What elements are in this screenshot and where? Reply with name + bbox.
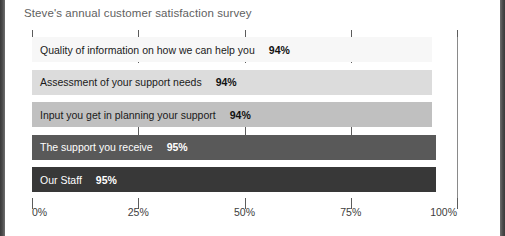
bar-row: Quality of information on how we can hel…: [32, 37, 457, 62]
bar-label: Our Staff: [32, 174, 82, 186]
x-axis-tick-label: 100%: [430, 206, 457, 218]
bar-value-label: 94%: [255, 44, 290, 56]
tick-mark-bottom: [457, 198, 458, 209]
bar[interactable]: Our Staff95%: [32, 167, 436, 192]
bar-value-label: 95%: [82, 174, 117, 186]
x-axis-tick-label: 0%: [32, 206, 47, 218]
bar-row: The support you receive95%: [32, 135, 457, 160]
x-axis-tick-label: 75%: [340, 206, 361, 218]
bar[interactable]: Assessment of your support needs94%: [32, 70, 432, 95]
x-axis-tick-label: 50%: [234, 206, 255, 218]
bar-label: The support you receive: [32, 141, 153, 153]
bar-value-label: 94%: [202, 76, 237, 88]
bar-row: Our Staff95%: [32, 167, 457, 192]
bar[interactable]: The support you receive95%: [32, 135, 436, 160]
bar-label: Input you get in planning your support: [32, 109, 216, 121]
bar-label: Quality of information on how we can hel…: [32, 44, 255, 56]
bar[interactable]: Quality of information on how we can hel…: [32, 37, 432, 62]
bar[interactable]: Input you get in planning your support94…: [32, 102, 432, 127]
page-edge-right: [500, 0, 505, 236]
axis-line-100: [457, 37, 458, 200]
chart-figure: Steve's annual customer satisfaction sur…: [0, 0, 505, 236]
bar-value-label: 95%: [153, 141, 188, 153]
bar-label: Assessment of your support needs: [32, 76, 202, 88]
page-edge-left: [0, 0, 5, 236]
chart-title: Steve's annual customer satisfaction sur…: [24, 7, 252, 19]
bar-value-label: 94%: [216, 109, 251, 121]
x-axis-tick-label: 25%: [128, 206, 149, 218]
bar-row: Input you get in planning your support94…: [32, 102, 457, 127]
plot-area: Quality of information on how we can hel…: [32, 37, 457, 200]
bar-row: Assessment of your support needs94%: [32, 70, 457, 95]
